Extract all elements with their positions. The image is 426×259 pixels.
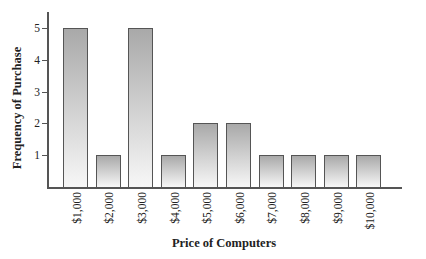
bar (193, 123, 218, 187)
x-tick-label: $2,000 (103, 192, 115, 224)
x-tick-label: $6,000 (234, 192, 246, 224)
x-tick-label: $4,000 (168, 192, 180, 224)
bar (161, 155, 186, 187)
y-tick (42, 123, 47, 124)
y-tick-label: 1 (28, 149, 40, 161)
y-tick (42, 155, 47, 156)
y-tick (42, 60, 47, 61)
bar (63, 28, 88, 187)
bar (226, 123, 251, 187)
y-tick-label: 4 (28, 54, 40, 66)
bar (291, 155, 316, 187)
y-tick (42, 92, 47, 93)
x-tick-label: $9,000 (331, 192, 343, 224)
x-axis-label: Price of Computers (172, 236, 276, 250)
y-tick-label: 5 (28, 22, 40, 34)
x-tick-label: $8,000 (299, 192, 311, 224)
y-tick-label: 2 (28, 117, 40, 129)
bar-chart: Frequency of Purchase 12345 $1,000$2,000… (0, 0, 426, 259)
bar (128, 28, 153, 187)
x-tick-label: $3,000 (136, 192, 148, 224)
x-tick-label: $7,000 (266, 192, 278, 224)
x-axis-line (47, 187, 402, 189)
y-axis-label-container: Frequency of Purchase (7, 28, 27, 188)
x-tick-label: $10,000 (364, 192, 376, 229)
bar (259, 155, 284, 187)
x-axis-label-container: Price of Computers (0, 236, 426, 251)
x-tick-label: $5,000 (201, 192, 213, 224)
bar (324, 155, 349, 187)
y-axis-label: Frequency of Purchase (10, 47, 25, 169)
bar (356, 155, 381, 187)
y-tick-label: 3 (28, 86, 40, 98)
bar (96, 155, 121, 187)
y-axis-line (47, 12, 49, 188)
y-tick (42, 28, 47, 29)
x-tick-label: $1,000 (71, 192, 83, 224)
